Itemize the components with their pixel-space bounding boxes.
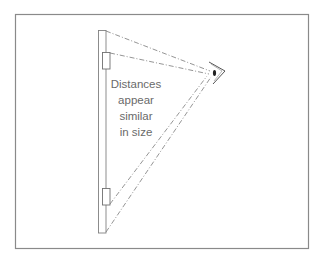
- caption-line-1: Distances: [111, 78, 162, 90]
- eye-icon: [209, 62, 225, 84]
- sight-line-bar-top: [106, 31, 210, 71]
- sight-line-upper-rect: [110, 53, 209, 74]
- distance-perception-diagram: Distances appear similar in size: [0, 0, 315, 257]
- caption-line-3: similar: [119, 110, 152, 122]
- pupil: [213, 70, 216, 76]
- caption: Distances appear similar in size: [111, 78, 162, 138]
- upper-rectangle: [103, 53, 111, 70]
- lower-rectangle: [103, 189, 111, 206]
- caption-line-2: appear: [118, 94, 154, 106]
- caption-line-4: in size: [120, 126, 153, 138]
- figure-frame: [16, 15, 309, 249]
